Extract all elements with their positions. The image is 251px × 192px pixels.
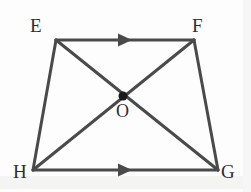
diagonal-EG xyxy=(56,40,218,170)
parallel-mark-ef-arrow-icon xyxy=(118,34,132,47)
intersection-dot xyxy=(119,92,128,101)
diagonal-FH xyxy=(33,40,194,170)
vertex-label-G: G xyxy=(221,162,235,181)
center-point-label-O: O xyxy=(116,102,129,120)
geometry-figure: E F G H O xyxy=(0,0,251,192)
vertex-label-E: E xyxy=(30,16,42,35)
vertex-label-F: F xyxy=(192,16,203,35)
parallel-mark-hg-arrow-icon xyxy=(118,164,132,177)
edge-FG xyxy=(194,40,218,170)
vertex-label-H: H xyxy=(13,162,27,181)
edge-EH xyxy=(33,40,56,170)
